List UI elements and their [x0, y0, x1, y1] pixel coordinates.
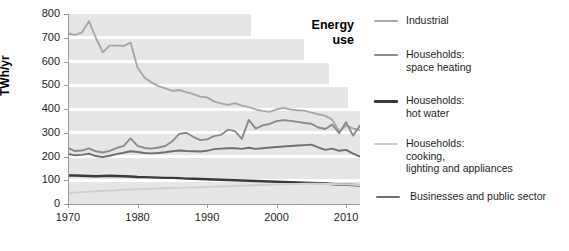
x-tick-mark [277, 204, 278, 208]
legend-swatch-icon [374, 20, 398, 22]
y-axis-label: TWh/yr [0, 55, 12, 96]
chart-legend: IndustrialHouseholds: space heatingHouse… [374, 0, 569, 251]
y-tick-label: 500 [20, 79, 60, 90]
y-tick-mark [64, 109, 68, 110]
y-tick-label: 200 [20, 151, 60, 162]
series-line-3 [68, 184, 360, 194]
y-tick-mark [64, 157, 68, 158]
legend-swatch-icon [376, 196, 400, 198]
chart-title: Energy use [268, 18, 354, 48]
y-tick-label: 400 [20, 103, 60, 114]
legend-label: Businesses and public sector [410, 190, 569, 203]
legend-label: Households: space heating [406, 48, 569, 73]
legend-label: Industrial [406, 14, 569, 27]
legend-swatch-icon [374, 100, 398, 103]
x-tick-mark [138, 204, 139, 208]
y-tick-mark [64, 180, 68, 181]
x-axis-line [68, 204, 360, 205]
x-tick-mark [68, 204, 69, 208]
x-tick-label: 1970 [48, 212, 88, 223]
chart-area: 8007006005004003002001000 19701980199020… [0, 0, 370, 251]
y-tick-label: 0 [20, 198, 60, 209]
legend-label: Households: cooking, lighting and applia… [406, 137, 569, 175]
legend-swatch-icon [374, 143, 398, 145]
y-tick-label: 300 [20, 127, 60, 138]
y-tick-mark [64, 38, 68, 39]
x-tick-label: 2010 [326, 212, 366, 223]
chart-title-line2: use [332, 33, 354, 47]
y-tick-label: 600 [20, 56, 60, 67]
y-tick-label: 700 [20, 32, 60, 43]
legend-swatch-icon [374, 54, 398, 56]
energy-use-chart-figure: 8007006005004003002001000 19701980199020… [0, 0, 569, 251]
chart-title-line1: Energy [312, 18, 354, 32]
y-axis-line [68, 14, 69, 204]
y-tick-label: 800 [20, 8, 60, 19]
y-tick-label: 100 [20, 174, 60, 185]
legend-label: Households: hot water [406, 94, 569, 119]
y-tick-mark [64, 62, 68, 63]
y-tick-mark [64, 14, 68, 15]
x-tick-label: 1990 [187, 212, 227, 223]
x-tick-label: 1980 [118, 212, 158, 223]
x-tick-label: 2000 [257, 212, 297, 223]
x-tick-mark [346, 204, 347, 208]
x-tick-mark [207, 204, 208, 208]
y-tick-mark [64, 133, 68, 134]
y-tick-mark [64, 85, 68, 86]
